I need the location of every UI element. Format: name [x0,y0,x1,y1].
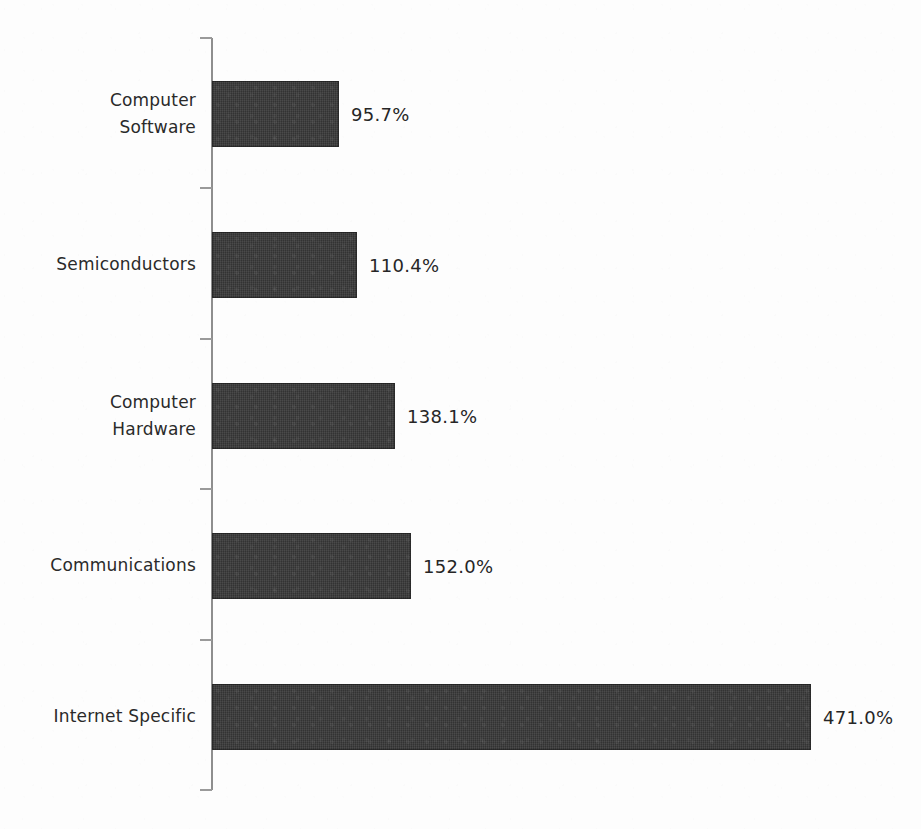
bar-value-label: 110.4% [369,232,439,298]
category-label: Computer Software [0,87,196,141]
category-label: Semiconductors [0,251,196,278]
category-label: Internet Specific [0,703,196,730]
bar-row: Computer Hardware 138.1% [0,383,921,449]
bar-row: Internet Specific 471.0% [0,684,921,750]
bar-value-label: 152.0% [423,533,493,599]
category-label: Computer Hardware [0,389,196,443]
bar-row: Semiconductors 110.4% [0,232,921,298]
bar-value-label: 95.7% [351,81,410,147]
bar-row: Computer Software 95.7% [0,81,921,147]
axis-tick [200,338,212,340]
bar [212,684,811,750]
axis-tick [200,37,212,39]
bar [212,232,357,298]
axis-tick [200,187,212,189]
bar [212,533,411,599]
category-label: Communications [0,552,196,579]
bar [212,81,339,147]
bar-chart: Computer Software 95.7% Semiconductors 1… [0,0,921,829]
axis-tick [200,488,212,490]
axis-tick [200,789,212,791]
bar-row: Communications 152.0% [0,533,921,599]
bar [212,383,395,449]
bar-value-label: 138.1% [407,383,477,449]
bar-value-label: 471.0% [823,684,893,750]
axis-tick [200,639,212,641]
